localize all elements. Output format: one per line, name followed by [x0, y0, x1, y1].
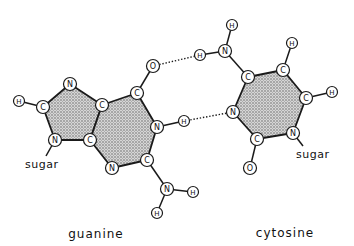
atom-g-h2b: H [152, 208, 163, 219]
atom-c-c5: C [277, 64, 290, 77]
atom-c-n1: N [287, 127, 300, 140]
cytosine-sugar-label: sugar [296, 148, 329, 161]
atom-g-n2: N [161, 183, 174, 196]
atom-c-o2: O [244, 162, 257, 175]
atom-symbol: C [134, 89, 140, 98]
atom-symbol: C [280, 66, 286, 75]
guanine-label: guanine [68, 227, 124, 241]
atom-g-c5: C [96, 99, 109, 112]
atom-c-h6: H [327, 87, 338, 98]
atom-g-c6: C [131, 87, 144, 100]
atom-symbol: H [229, 22, 234, 30]
atom-symbol: C [99, 101, 105, 110]
atom-symbol: C [144, 156, 150, 165]
atom-symbol: N [67, 80, 73, 89]
atom-symbol: N [230, 108, 236, 117]
atom-g-n1: N [151, 121, 164, 134]
atom-symbol: C [303, 94, 309, 103]
atom-symbol: O [150, 62, 156, 71]
atom-symbol: O [247, 164, 253, 173]
atom-symbol: C [245, 73, 251, 82]
atom-g-c8: C [37, 101, 50, 114]
gc-base-pair-diagram: NCHNCCCONHCNNHHNHHCCHCHNCON sugar sugar … [0, 0, 354, 246]
atom-symbol: N [222, 47, 228, 56]
atom-g-n7: N [64, 78, 77, 91]
atom-g-h8: H [14, 96, 25, 107]
atom-symbol: C [87, 136, 93, 145]
atom-c-c4: C [242, 71, 255, 84]
atom-symbol: N [164, 185, 170, 194]
atom-symbol: H [181, 118, 186, 126]
atom-c-c6: C [300, 92, 313, 105]
atom-symbol: H [329, 89, 334, 97]
atom-c-h4a: H [195, 50, 206, 61]
atom-symbol: H [16, 98, 21, 106]
atom-c-h4b: H [227, 20, 238, 31]
atom-symbol: H [197, 52, 202, 60]
hydrogen-bond-G_H1-C_N3 [184, 112, 233, 121]
atom-c-n4: N [219, 45, 232, 58]
cytosine-label: cytosine [256, 226, 314, 240]
atom-g-c2: C [141, 154, 154, 167]
atom-symbol: N [290, 129, 296, 138]
atom-c-c2: C [251, 133, 264, 146]
atom-symbol: H [289, 40, 294, 48]
atom-symbol: N [52, 136, 58, 145]
atom-g-n3: N [106, 162, 119, 175]
hydrogen-bond-G_O6-C_H4a [153, 55, 200, 66]
atom-c-h5: H [287, 38, 298, 49]
atom-symbol: N [154, 123, 160, 132]
atom-g-n9: N [49, 134, 62, 147]
atom-c-n3: N [227, 106, 240, 119]
guanine-sugar-label: sugar [25, 158, 58, 171]
atom-g-c4: C [84, 134, 97, 147]
aromatic-rings [43, 70, 306, 168]
hydrogen-bonds [153, 55, 233, 121]
atom-g-h2a: H [188, 187, 199, 198]
atom-g-o6: O [147, 60, 160, 73]
atom-symbol: H [190, 189, 195, 197]
atom-symbol: C [40, 103, 46, 112]
atom-symbol: N [109, 164, 115, 173]
atom-symbol: C [254, 135, 260, 144]
atom-symbol: H [154, 210, 159, 218]
atom-g-h1: H [179, 116, 190, 127]
